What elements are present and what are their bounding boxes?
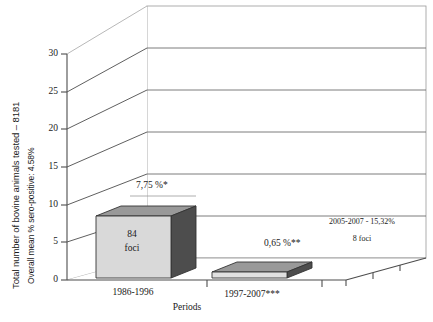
- y-tick-15: 15: [36, 162, 58, 172]
- bar1-foci-count: 84: [104, 230, 160, 240]
- period-note-line2: 8 foci: [316, 235, 408, 243]
- y-tick-20: 20: [36, 124, 58, 134]
- chart-canvas: [0, 0, 433, 322]
- data-label-bar2: 0,65 %**: [264, 239, 300, 249]
- x-category-label-1: 1986-1996: [93, 288, 173, 298]
- y-tick-25: 25: [36, 87, 58, 97]
- y-axis-ticks: [61, 54, 67, 280]
- chart-figure: Total number of bovine animals tested – …: [0, 0, 433, 322]
- y-tick-0: 0: [36, 275, 58, 285]
- y-axis-title: Overall mean % sero-positive: 4.58%: [27, 148, 36, 284]
- y-axis-title-secondary: Total number of bovine animals tested – …: [11, 102, 21, 289]
- bar1-foci-word: foci: [104, 244, 160, 254]
- x-category-label-2: 1997-2007***: [206, 290, 298, 300]
- data-label-bar1: 7,75 %*: [136, 181, 168, 191]
- x-axis-title: Periods: [142, 303, 232, 313]
- x-axis-ticks: [207, 280, 322, 287]
- period-note-line1: 2005-2007 - 15,32%: [316, 218, 408, 226]
- y-tick-5: 5: [36, 237, 58, 247]
- y-tick-10: 10: [36, 200, 58, 210]
- bar-1986-1996[interactable]: [96, 206, 196, 278]
- y-tick-30: 30: [36, 49, 58, 59]
